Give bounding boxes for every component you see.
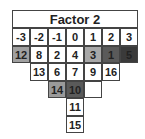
grid-cell (84, 81, 102, 99)
column-header: -3 (12, 28, 30, 46)
grid-cell: 1 (102, 46, 120, 64)
grid-cell: 15 (66, 116, 84, 134)
factor-title: Factor 2 (12, 10, 138, 28)
grid-cell: 5 (120, 46, 138, 64)
grid-cell: 13 (30, 63, 48, 81)
column-header: 2 (102, 28, 120, 46)
grid-cell: 6 (48, 63, 66, 81)
grid-cell: 9 (84, 63, 102, 81)
column-header: 0 (66, 28, 84, 46)
grid-cell: 10 (66, 81, 84, 99)
grid-cell: 4 (66, 46, 84, 64)
grid-cell: 11 (66, 98, 84, 116)
grid-cell: 8 (30, 46, 48, 64)
column-header: 3 (120, 28, 138, 46)
grid-cell: 12 (12, 46, 30, 64)
column-header: -1 (48, 28, 66, 46)
column-header: -2 (30, 28, 48, 46)
grid-cell: 14 (48, 81, 66, 99)
grid-cell: 3 (84, 46, 102, 64)
grid-cell: 7 (66, 63, 84, 81)
grid-cell: 16 (102, 63, 120, 81)
grid-cell: 2 (48, 46, 66, 64)
column-header: 1 (84, 28, 102, 46)
